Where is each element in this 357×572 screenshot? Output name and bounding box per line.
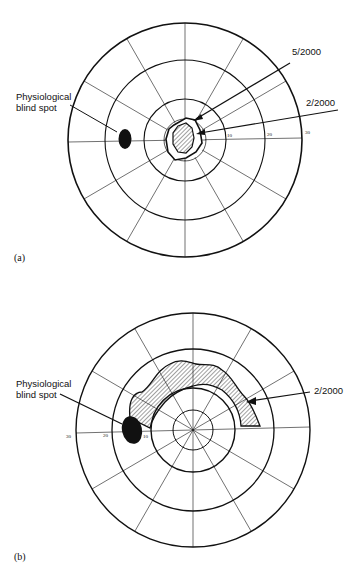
panel-label-a: (a) xyxy=(14,252,25,264)
isopter-label-2-2000-a: 2/2000 xyxy=(306,97,335,108)
perimetry-grid-b xyxy=(76,313,310,547)
tick-30-b: 30 xyxy=(66,434,72,439)
panel-label-b: (b) xyxy=(14,551,26,563)
blind-spot-label-line1-b: Physiological xyxy=(16,378,71,389)
visual-field-figure: Physiological blind spot 5/2000 2/2000 1… xyxy=(0,0,357,572)
scotoma-label-2-2000-b: 2/2000 xyxy=(314,385,343,396)
tick-20-a: 20 xyxy=(267,132,273,137)
blind-spot-a xyxy=(119,129,132,149)
panel-a: Physiological blind spot 5/2000 2/2000 1… xyxy=(14,23,338,264)
tick-20-b: 20 xyxy=(103,433,109,438)
isopter-label-5-2000: 5/2000 xyxy=(292,46,321,57)
blind-spot-label-line1-a: Physiological xyxy=(16,91,71,102)
blind-spot-label-line2-a: blind spot xyxy=(16,102,57,113)
tick-10-b: 10 xyxy=(143,434,149,439)
arcuate-scotoma xyxy=(130,361,260,428)
tick-10-a: 10 xyxy=(227,133,233,138)
blind-spot-label-line2-b: blind spot xyxy=(16,389,57,400)
tick-30-a: 30 xyxy=(305,130,311,135)
panel-b: Physiological blind spot 2/2000 10 20 30… xyxy=(14,313,343,563)
